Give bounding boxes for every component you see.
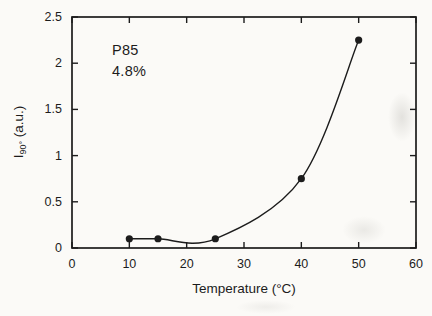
data-curve bbox=[129, 40, 358, 243]
x-tick-label: 20 bbox=[180, 257, 194, 271]
plot-area bbox=[0, 0, 432, 316]
annotation-line1: P85 bbox=[112, 40, 146, 61]
annotation-line2: 4.8% bbox=[112, 61, 146, 82]
x-tick-label: 0 bbox=[69, 257, 76, 271]
annotation: P85 4.8% bbox=[112, 40, 146, 82]
data-point bbox=[355, 37, 362, 44]
y-tick-label: 1 bbox=[24, 149, 62, 163]
data-point bbox=[212, 235, 219, 242]
x-axis-title: Temperature (°C) bbox=[192, 281, 296, 296]
y-tick-label: 1.5 bbox=[24, 102, 62, 116]
x-tick-label: 50 bbox=[352, 257, 366, 271]
y-tick-label: 0.5 bbox=[24, 195, 62, 209]
x-tick-label: 30 bbox=[237, 257, 251, 271]
figure: P85 4.8% Temperature (°C) I90° (a.u.) 01… bbox=[0, 0, 432, 316]
data-point bbox=[298, 175, 305, 182]
data-point bbox=[126, 235, 133, 242]
x-tick-label: 40 bbox=[294, 257, 308, 271]
x-tick-label: 10 bbox=[122, 257, 136, 271]
y-tick-label: 0 bbox=[24, 241, 62, 255]
y-tick-label: 2.5 bbox=[24, 10, 62, 24]
y-tick-label: 2 bbox=[24, 56, 62, 70]
x-tick-label: 60 bbox=[409, 257, 423, 271]
data-point bbox=[154, 235, 161, 242]
